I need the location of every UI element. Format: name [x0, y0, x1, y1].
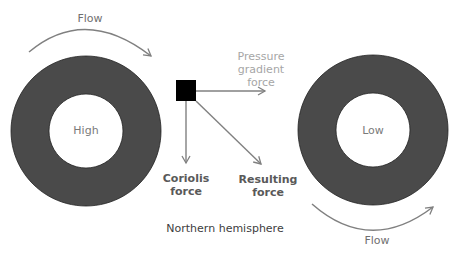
pressure-gradient-line1: Pressure — [226, 50, 296, 63]
resulting-force-arrow — [196, 101, 261, 164]
air-parcel-square — [176, 80, 196, 101]
coriolis-line1: Coriolis — [159, 172, 213, 185]
pressure-gradient-line3: force — [226, 76, 296, 89]
resulting-label: Resulting force — [238, 173, 298, 199]
pressure-gradient-line2: gradient — [226, 63, 296, 76]
flow-arrow-bottom — [312, 204, 433, 230]
hemisphere-caption: Northern hemisphere — [160, 222, 290, 235]
flow-label-top: Flow — [72, 12, 108, 25]
resulting-line2: force — [238, 186, 298, 199]
low-label: Low — [353, 124, 393, 137]
flow-arrow-top — [29, 29, 151, 56]
pressure-gradient-label: Pressure gradient force — [226, 50, 296, 89]
coriolis-label: Coriolis force — [159, 172, 213, 198]
resulting-line1: Resulting — [238, 173, 298, 186]
coriolis-line2: force — [159, 185, 213, 198]
high-label: High — [66, 124, 106, 137]
flow-label-bottom: Flow — [359, 234, 395, 247]
